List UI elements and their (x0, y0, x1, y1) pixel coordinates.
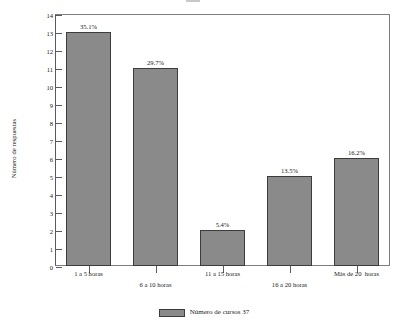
bar[interactable]: 16.2% (334, 158, 379, 266)
bar-value-label: 29.7% (147, 59, 164, 67)
y-tick-label: 6 (50, 155, 53, 164)
legend: Número de cursos 37 (0, 308, 408, 317)
x-axis-label: 11 a 15 horas (205, 269, 240, 278)
x-axis: 1 a 5 horas6 a 10 horas11 a 15 horas16 a… (55, 266, 390, 296)
x-axis-label: 1 a 5 horas (74, 269, 103, 278)
bar-chart: Número de respuestas 1413121110987654321… (0, 0, 408, 333)
bar[interactable]: 13.5% (267, 176, 312, 266)
bars-container: 35.1%29.7%5.4%13.5%16.2% (55, 14, 390, 266)
truncated-title-mark (186, 0, 200, 2)
y-axis-title: Número de respuestas (10, 89, 17, 209)
y-tick-label: 5 (50, 173, 53, 182)
x-tick (290, 266, 291, 273)
y-tick-label: 4 (50, 191, 53, 200)
x-axis-label: 16 a 20 horas (272, 280, 307, 289)
x-tick (156, 266, 157, 273)
y-tick-label: 7 (50, 137, 53, 146)
x-axis-label: 6 a 10 horas (139, 280, 171, 289)
y-tick-label: 1 (50, 245, 53, 254)
x-axis-label: Más de 20 horas (334, 269, 379, 278)
y-tick-label: 3 (50, 209, 53, 218)
bar-value-label: 16.2% (348, 149, 365, 157)
bar-value-label: 13.5% (281, 167, 298, 175)
y-tick-label: 11 (47, 65, 53, 74)
y-tick-label: 12 (46, 47, 53, 56)
y-tick-label: 2 (50, 227, 53, 236)
y-tick-label: 14 (46, 11, 53, 20)
bar[interactable]: 35.1% (66, 32, 111, 266)
y-tick-label: 9 (50, 101, 53, 110)
legend-swatch-icon (159, 309, 185, 317)
bar[interactable]: 29.7% (133, 68, 178, 266)
y-tick-label: 8 (50, 119, 53, 128)
bar-value-label: 5.4% (216, 221, 230, 229)
y-tick-label: 13 (46, 29, 53, 38)
bar[interactable]: 5.4% (200, 230, 245, 266)
bar-value-label: 35.1% (80, 23, 97, 31)
y-tick-label: 0 (50, 263, 53, 272)
y-tick-label: 10 (46, 83, 53, 92)
legend-label: Número de cursos 37 (190, 308, 250, 317)
